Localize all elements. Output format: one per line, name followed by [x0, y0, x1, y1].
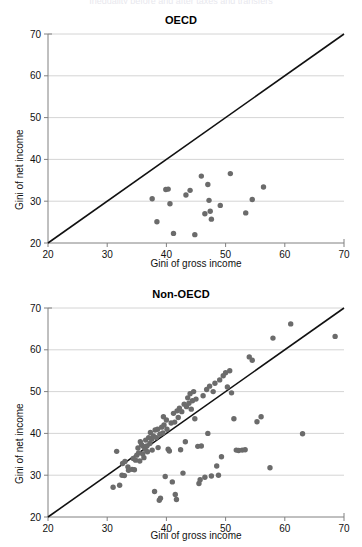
data-point	[149, 196, 154, 201]
data-point	[183, 439, 188, 444]
scatter-svg-nonoecd: 203040506070203040506070	[0, 272, 362, 544]
data-point	[231, 416, 236, 421]
data-point	[165, 186, 170, 191]
data-point	[261, 184, 266, 189]
data-point	[225, 384, 230, 389]
data-point	[114, 449, 119, 454]
data-point	[172, 419, 177, 424]
data-point	[192, 416, 197, 421]
y-tick-label-20: 20	[30, 238, 42, 249]
y-tick-label-30: 30	[30, 470, 42, 481]
data-point	[199, 173, 204, 178]
data-point	[243, 210, 248, 215]
data-point	[180, 470, 185, 475]
data-point	[254, 419, 259, 424]
data-point	[178, 447, 183, 452]
data-point	[174, 497, 179, 502]
data-point	[171, 231, 176, 236]
y-tick-label-20: 20	[30, 512, 42, 523]
data-point	[173, 492, 178, 497]
data-point	[332, 334, 337, 339]
data-point	[197, 477, 202, 482]
data-point	[122, 459, 127, 464]
x-axis-label-oecd: Gini of gross income	[0, 258, 344, 269]
scatter-svg-oecd: 203040506070203040506070	[0, 0, 362, 270]
data-point	[202, 475, 207, 480]
data-point	[170, 479, 175, 484]
data-point	[227, 368, 232, 373]
data-point	[141, 455, 146, 460]
data-point	[300, 431, 305, 436]
data-point	[155, 445, 160, 450]
data-point	[210, 389, 215, 394]
data-point	[208, 209, 213, 214]
data-point	[167, 448, 172, 453]
data-point	[214, 463, 219, 468]
data-point	[167, 201, 172, 206]
data-point	[122, 473, 127, 478]
data-point	[202, 211, 207, 216]
data-point	[152, 489, 157, 494]
data-point	[250, 358, 255, 363]
data-point	[164, 427, 169, 432]
data-point	[219, 454, 224, 459]
y-tick-label-50: 50	[30, 386, 42, 397]
data-point	[206, 198, 211, 203]
data-point	[179, 409, 184, 414]
data-point	[258, 414, 263, 419]
data-point	[163, 474, 168, 479]
data-point	[209, 473, 214, 478]
data-point-group	[110, 321, 337, 503]
data-point	[229, 390, 234, 395]
data-point	[183, 192, 188, 197]
plot-area-oecd: 203040506070203040506070	[0, 0, 362, 270]
data-point	[149, 447, 154, 452]
data-point	[205, 182, 210, 187]
y-tick-label-60: 60	[30, 344, 42, 355]
y-tick-label-40: 40	[30, 428, 42, 439]
data-point	[117, 483, 122, 488]
data-point	[176, 415, 181, 420]
plot-area-nonoecd: 203040506070203040506070	[0, 272, 362, 544]
panel-nonoecd: Non-OECD Gini of net income 203040506070…	[0, 272, 362, 547]
data-point	[191, 389, 196, 394]
data-point	[205, 431, 210, 436]
x-axis-label-nonoecd: Gini of gross income	[0, 530, 344, 541]
data-point	[192, 232, 197, 237]
data-point	[199, 443, 204, 448]
data-point	[145, 449, 150, 454]
data-point	[158, 495, 163, 500]
data-point	[164, 417, 169, 422]
data-point	[217, 377, 222, 382]
data-point	[154, 219, 159, 224]
data-point	[160, 430, 165, 435]
data-point	[270, 335, 275, 340]
data-point	[200, 393, 205, 398]
reference-line-45deg	[48, 34, 344, 243]
y-tick-label-50: 50	[30, 112, 42, 123]
y-tick-label-30: 30	[30, 196, 42, 207]
data-point	[207, 383, 212, 388]
data-point	[267, 465, 272, 470]
data-point	[228, 171, 233, 176]
data-point	[110, 485, 115, 490]
data-point	[250, 197, 255, 202]
data-point	[187, 188, 192, 193]
data-point-group	[149, 171, 266, 237]
y-tick-label-70: 70	[30, 303, 42, 314]
y-tick-label-60: 60	[30, 70, 42, 81]
data-point	[218, 203, 223, 208]
figure-root: Inequality before and after taxes and tr…	[0, 0, 362, 547]
data-point	[132, 467, 137, 472]
data-point	[212, 381, 217, 386]
data-point	[288, 321, 293, 326]
panel-oecd: OECD Gini of net income 2030405060702030…	[0, 0, 362, 275]
reference-line-45deg	[48, 308, 344, 517]
data-point	[189, 406, 194, 411]
data-point	[242, 447, 247, 452]
data-point	[209, 216, 214, 221]
y-tick-label-70: 70	[30, 29, 42, 40]
y-tick-label-40: 40	[30, 154, 42, 165]
data-point	[216, 473, 221, 478]
data-point	[193, 396, 198, 401]
